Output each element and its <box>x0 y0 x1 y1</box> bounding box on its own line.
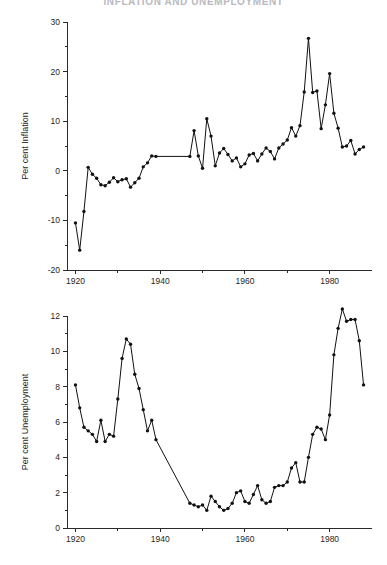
data-point <box>235 491 238 494</box>
data-point <box>188 502 191 505</box>
data-point <box>324 438 327 441</box>
y-tick-label: -10 <box>48 215 61 225</box>
data-point <box>273 486 276 489</box>
data-point <box>218 505 221 508</box>
y-tick-label: 4 <box>55 452 60 462</box>
data-point <box>82 210 85 213</box>
x-tick-label: 1940 <box>151 534 170 544</box>
data-point <box>192 129 195 132</box>
data-point <box>82 426 85 429</box>
y-tick-label: 2 <box>55 488 60 498</box>
data-point <box>264 146 267 149</box>
data-point <box>273 157 276 160</box>
data-point <box>277 484 280 487</box>
data-point <box>142 408 145 411</box>
data-point <box>197 505 200 508</box>
data-point <box>95 440 98 443</box>
data-point <box>349 318 352 321</box>
data-point <box>154 155 157 158</box>
data-point <box>218 151 221 154</box>
data-point <box>91 173 94 176</box>
data-point <box>150 154 153 157</box>
data-point <box>108 181 111 184</box>
data-point <box>108 433 111 436</box>
data-point <box>269 500 272 503</box>
data-point <box>129 185 132 188</box>
data-point <box>358 148 361 151</box>
data-point <box>120 357 123 360</box>
data-point <box>146 161 149 164</box>
unemployment-plot: 0246810121920194019601980Per cent Unempl… <box>0 300 387 565</box>
data-point <box>116 397 119 400</box>
chart-panel-unemployment: 0246810121920194019601980Per cent Unempl… <box>0 300 387 565</box>
data-point <box>86 429 89 432</box>
data-point <box>362 145 365 148</box>
data-point <box>146 429 149 432</box>
data-point <box>231 502 234 505</box>
data-point <box>188 155 191 158</box>
data-point <box>231 159 234 162</box>
data-point <box>319 427 322 430</box>
data-point <box>154 438 157 441</box>
data-point <box>290 466 293 469</box>
data-point <box>201 503 204 506</box>
data-point <box>222 147 225 150</box>
data-point <box>256 159 259 162</box>
y-tick-label: 12 <box>51 311 61 321</box>
x-tick-label: 1920 <box>66 534 85 544</box>
data-point <box>332 353 335 356</box>
data-point <box>328 72 331 75</box>
data-point <box>116 180 119 183</box>
data-point <box>341 145 344 148</box>
data-point <box>197 154 200 157</box>
data-point <box>205 117 208 120</box>
x-tick-label: 1980 <box>320 276 339 286</box>
data-point <box>99 183 102 186</box>
data-point <box>260 498 263 501</box>
data-point <box>349 139 352 142</box>
y-tick-label: 6 <box>55 417 60 427</box>
data-point <box>303 480 306 483</box>
data-point <box>99 419 102 422</box>
data-point <box>345 320 348 323</box>
data-point <box>328 413 331 416</box>
data-point <box>214 500 217 503</box>
data-point <box>294 134 297 137</box>
data-point <box>150 419 153 422</box>
x-tick-label: 1980 <box>320 534 339 544</box>
data-point <box>252 152 255 155</box>
data-point <box>243 500 246 503</box>
data-point <box>269 150 272 153</box>
data-point <box>281 484 284 487</box>
data-point <box>336 126 339 129</box>
data-point <box>125 177 128 180</box>
y-tick-label: 10 <box>51 116 61 126</box>
chart-panel-inflation: -20-1001020301920194019601980Per cent In… <box>0 8 387 290</box>
data-point <box>222 509 225 512</box>
y-axis-title: Per cent Unemployment <box>20 373 30 470</box>
data-point <box>226 153 229 156</box>
data-point <box>226 507 229 510</box>
data-point <box>239 165 242 168</box>
data-point <box>315 89 318 92</box>
x-tick-label: 1920 <box>66 276 85 286</box>
data-point <box>129 343 132 346</box>
data-point <box>137 177 140 180</box>
y-tick-label: 0 <box>55 166 60 176</box>
data-point <box>112 176 115 179</box>
data-point <box>142 165 145 168</box>
data-point <box>358 339 361 342</box>
data-point <box>133 181 136 184</box>
data-point <box>332 112 335 115</box>
data-point <box>260 152 263 155</box>
data-point <box>362 383 365 386</box>
data-point <box>243 162 246 165</box>
data-point <box>239 489 242 492</box>
data-point <box>74 221 77 224</box>
data-point <box>78 248 81 251</box>
data-point <box>209 495 212 498</box>
y-tick-label: 30 <box>51 17 61 27</box>
y-tick-label: 8 <box>55 382 60 392</box>
data-point <box>336 327 339 330</box>
data-point <box>341 307 344 310</box>
